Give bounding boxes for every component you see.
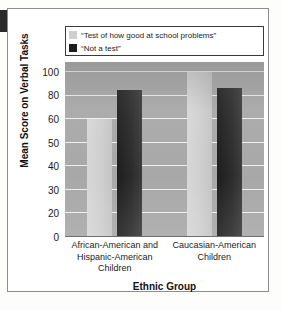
y-tick-label-50: 50 [48, 137, 59, 148]
x-category-2-line1: Caucasian-American [172, 240, 256, 250]
legend-label-dark: “Not a test” [81, 44, 121, 53]
y-tick-label-60: 60 [48, 114, 59, 125]
x-category-label-2: Caucasian-American Children [165, 240, 265, 282]
x-category-1-line1: African-American and [71, 240, 158, 250]
y-axis-title: Mean Score on Verbal Tasks [19, 26, 30, 176]
legend-swatch-dark [69, 44, 77, 52]
y-tick-label-30: 30 [48, 184, 59, 195]
chart-legend: “Test of how good at school problems” “N… [65, 26, 264, 56]
figure-frame: “Test of how good at school problems” “N… [7, 8, 269, 292]
y-tick-label-0: 0 [53, 232, 59, 243]
x-category-1-line3: Children [98, 263, 132, 273]
plot-area [65, 62, 264, 237]
x-category-label-1: African-American and Hispanic-American C… [65, 240, 165, 282]
legend-swatch-light [69, 31, 77, 39]
y-tick-label-80: 80 [48, 90, 59, 101]
x-category-1-line2: Hispanic-American [77, 252, 153, 262]
bar-group-2-series-1 [187, 72, 212, 237]
legend-item-not-a-test: “Not a test” [69, 42, 260, 54]
x-axis-baseline [65, 236, 264, 237]
x-axis-category-labels: African-American and Hispanic-American C… [65, 240, 264, 282]
y-tick-label-100: 100 [42, 66, 59, 77]
bar-group-1-series-2 [117, 90, 142, 237]
y-axis-tick-labels: 0203040506080100 [8, 62, 63, 237]
y-tick-label-20: 20 [48, 208, 59, 219]
x-axis-title: Ethnic Group [65, 281, 264, 292]
x-category-2-line2: Children [197, 252, 231, 262]
figure-root: “Test of how good at school problems” “N… [0, 0, 282, 310]
page-gutter-mark [0, 10, 7, 32]
bar-group-2-series-2 [217, 88, 242, 237]
legend-item-test-of-how-good: “Test of how good at school problems” [69, 29, 260, 41]
y-tick-label-40: 40 [48, 161, 59, 172]
gridline-100 [65, 71, 264, 72]
bar-group-1-series-1 [87, 119, 112, 237]
legend-label-light: “Test of how good at school problems” [81, 31, 216, 40]
